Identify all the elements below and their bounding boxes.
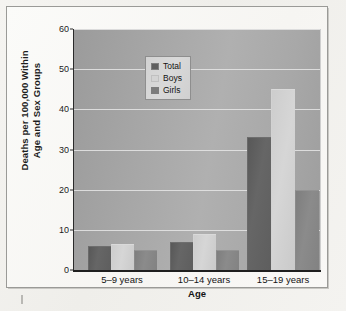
plot-area: Total Boys Girls <box>74 29 321 270</box>
girls-swatch-icon <box>151 87 159 94</box>
y-tick-label-10: 10 <box>59 225 69 235</box>
page-edge-mark <box>21 295 23 304</box>
gridline-60 <box>74 29 320 30</box>
y-tick-label-30: 30 <box>59 145 69 155</box>
legend-label-girls: Girls <box>163 86 180 95</box>
boys-swatch-icon <box>151 75 159 82</box>
gridline-50 <box>74 69 320 70</box>
y-tick-label-20: 20 <box>59 185 69 195</box>
y-tick-mark-20 <box>70 189 73 190</box>
legend-item-total: Total <box>151 61 182 71</box>
y-tick-group: 60 50 40 30 20 10 0 <box>73 29 74 271</box>
chart-legend: Total Boys Girls <box>145 56 191 100</box>
y-tick-label-50: 50 <box>59 64 69 74</box>
y-tick-mark-60 <box>70 29 73 30</box>
y-tick-mark-0 <box>70 270 73 271</box>
bar-total-15-19 <box>247 137 271 270</box>
x-axis-title: Age <box>74 288 320 299</box>
bar-boys-15-19 <box>271 89 295 270</box>
legend-label-total: Total <box>163 62 181 71</box>
y-axis-title-line-1: Deaths per 100,000 Within <box>19 16 31 206</box>
bar-total-10-14 <box>170 242 193 270</box>
bar-girls-5-9 <box>134 250 157 270</box>
x-axis-line <box>73 270 321 272</box>
bar-girls-15-19 <box>295 190 319 270</box>
x-tick-label-10-14: 10–14 years <box>178 274 230 285</box>
bar-boys-5-9 <box>111 244 134 270</box>
y-tick-mark-40 <box>70 109 73 110</box>
y-tick-label-0: 0 <box>64 265 69 275</box>
total-swatch-icon <box>151 63 159 70</box>
bar-girls-10-14 <box>216 250 239 270</box>
y-tick-mark-50 <box>70 69 73 70</box>
y-tick-mark-10 <box>70 229 73 230</box>
figure-frame: Deaths per 100,000 Within Age and Sex Gr… <box>6 6 328 288</box>
y-tick-label-40: 40 <box>59 104 69 114</box>
y-tick-label-60: 60 <box>59 24 69 34</box>
legend-label-boys: Boys <box>163 74 182 83</box>
legend-item-boys: Boys <box>151 73 182 83</box>
y-axis-title: Deaths per 100,000 Within Age and Sex Gr… <box>19 16 42 206</box>
bar-boys-10-14 <box>193 234 216 270</box>
y-tick-mark-30 <box>70 149 73 150</box>
x-tick-label-5-9: 5–9 years <box>101 274 143 285</box>
y-axis-title-line-2: Age and Sex Groups <box>30 16 42 206</box>
x-tick-label-15-19: 15–19 years <box>257 274 309 285</box>
legend-item-girls: Girls <box>151 85 182 95</box>
bar-total-5-9 <box>88 246 111 270</box>
